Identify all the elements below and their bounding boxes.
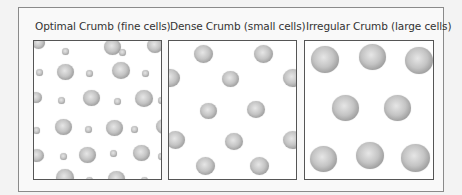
optimal-crumb-panel (33, 40, 162, 180)
air-cell-bubble (33, 127, 40, 134)
air-cell-bubble (168, 131, 185, 149)
air-cell-bubble (283, 131, 297, 149)
air-cell-bubble (356, 142, 384, 169)
air-cell-bubble (33, 149, 44, 162)
air-cell-bubble (310, 146, 337, 172)
air-cell-bubble (33, 92, 42, 103)
air-cell-bubble (57, 64, 74, 80)
air-cell-bubble (112, 62, 130, 79)
air-cell-bubble (110, 150, 117, 157)
air-cell-bubble (131, 126, 138, 133)
air-cell-bubble (79, 147, 96, 163)
air-cell-bubble (283, 69, 297, 87)
air-cell-bubble (58, 97, 65, 104)
air-cell-bubble (194, 45, 213, 63)
air-cell-bubble (250, 157, 269, 175)
air-cell-bubble (401, 144, 430, 172)
air-cell-bubble (86, 177, 93, 180)
air-cell-bubble (133, 145, 150, 161)
air-cell-bubble (200, 103, 217, 119)
dense-crumb-panel (168, 40, 297, 180)
air-cell-bubble (141, 177, 148, 180)
air-cell-bubble (196, 157, 215, 175)
air-cell-bubble (85, 126, 92, 133)
air-cell-bubble (332, 95, 359, 121)
air-cell-bubble (55, 119, 72, 135)
air-cell-bubble (405, 47, 433, 74)
irregular-crumb-panel (304, 40, 434, 180)
air-cell-bubble (106, 120, 123, 136)
air-cell-bubble (56, 169, 74, 180)
air-cell-bubble (62, 48, 69, 55)
air-cell-bubble (158, 97, 162, 104)
air-cell-bubble (86, 70, 93, 77)
air-cell-bubble (33, 40, 45, 49)
air-cell-bubble (247, 101, 265, 118)
air-cell-bubble (168, 69, 180, 87)
air-cell-bubble (158, 153, 162, 160)
air-cell-bubble (254, 45, 273, 63)
irregular-crumb-title: Irregular Crumb (large cells) (306, 20, 451, 32)
air-cell-bubble (384, 95, 411, 121)
air-cell-bubble (83, 90, 100, 106)
air-cell-bubble (119, 49, 126, 56)
dense-crumb-title: Dense Crumb (small cells) (170, 20, 306, 32)
optimal-crumb-title: Optimal Crumb (fine cells) (35, 20, 171, 32)
air-cell-bubble (135, 90, 153, 107)
air-cell-bubble (60, 153, 67, 160)
air-cell-bubble (108, 171, 125, 180)
air-cell-bubble (225, 133, 243, 150)
air-cell-bubble (156, 119, 162, 134)
air-cell-bubble (147, 40, 162, 53)
air-cell-bubble (311, 46, 339, 73)
air-cell-bubble (114, 98, 121, 105)
air-cell-bubble (142, 70, 149, 77)
air-cell-bubble (222, 71, 239, 87)
air-cell-bubble (36, 69, 43, 76)
air-cell-bubble (359, 44, 386, 70)
